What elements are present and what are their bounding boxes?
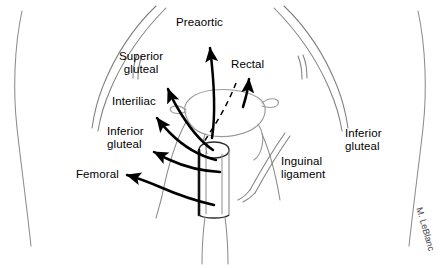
- label-inferior-gluteal-right: Inferior gluteal: [345, 127, 382, 152]
- label-superior-gluteal: Superior gluteal: [119, 50, 163, 75]
- label-interiliac: Interiliac: [112, 95, 156, 108]
- label-inguinal-ligament: Inguinal ligament: [281, 155, 325, 180]
- label-inferior-gluteal-left: Inferior gluteal: [107, 125, 144, 150]
- label-preaortic: Preaortic: [176, 16, 223, 29]
- label-rectal: Rectal: [231, 58, 264, 71]
- label-femoral: Femoral: [76, 168, 119, 181]
